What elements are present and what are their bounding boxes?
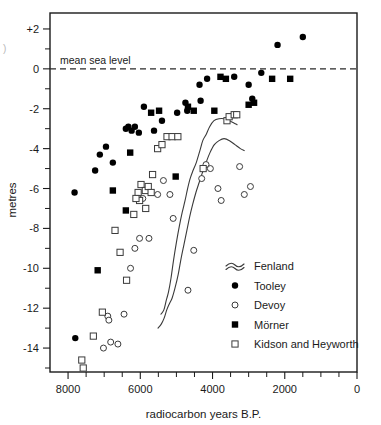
legend-label-1: Tooley: [254, 280, 286, 292]
data-point-devoy: [146, 235, 152, 241]
data-point-devoy: [155, 191, 161, 197]
data-point-tooley: [141, 104, 147, 110]
data-point-kidson: [149, 171, 155, 177]
data-point-morner: [287, 76, 293, 82]
data-point-devoy: [237, 164, 243, 170]
data-point-devoy: [132, 245, 138, 251]
legend-label-4: Kidson and Heyworth: [254, 338, 359, 350]
y-tick-label: -12: [23, 302, 39, 314]
data-point-kidson: [79, 357, 85, 363]
data-point-morner: [269, 76, 275, 82]
data-point-tooley: [232, 282, 238, 288]
data-point-morner: [123, 207, 129, 213]
data-point-tooley: [72, 335, 78, 341]
data-point-morner: [156, 108, 162, 114]
legend-label-0: Fenland: [254, 260, 294, 272]
data-point-morner: [127, 149, 133, 155]
data-point-devoy: [160, 178, 166, 184]
data-point-tooley: [245, 82, 251, 88]
data-point-kidson: [159, 142, 165, 148]
data-point-kidson: [133, 195, 139, 201]
data-point-devoy: [167, 191, 173, 197]
data-point-kidson: [143, 205, 149, 211]
data-point-kidson: [112, 227, 118, 233]
data-point-morner: [223, 76, 229, 82]
data-point-tooley: [300, 34, 306, 40]
data-point-kidson: [99, 309, 105, 315]
data-point-devoy: [191, 247, 197, 253]
data-point-devoy: [121, 311, 127, 317]
data-point-kidson: [135, 189, 141, 195]
legend-label-2: Devoy: [254, 299, 286, 311]
data-point-morner: [211, 108, 217, 114]
x-tick-label: 8000: [56, 383, 80, 395]
data-point-tooley: [197, 98, 203, 104]
data-point-tooley: [110, 159, 116, 165]
data-point-tooley: [274, 42, 280, 48]
legend-swatch-fenland: [226, 263, 244, 267]
data-point-tooley: [204, 76, 210, 82]
y-tick-label: -2: [29, 103, 39, 115]
y-tick-label: +2: [26, 23, 39, 35]
data-point-devoy: [108, 339, 114, 345]
data-point-kidson: [90, 333, 96, 339]
scatter-chart: 80006000400020000+20-2-4-6-8-10-12-14rad…: [0, 0, 381, 425]
data-point-morner: [185, 104, 191, 110]
data-point-morner: [148, 110, 154, 116]
data-point-kidson: [123, 277, 129, 283]
data-point-morner: [232, 321, 238, 327]
data-point-kidson: [131, 211, 137, 217]
data-point-devoy: [207, 166, 213, 172]
x-tick-label: 6000: [128, 383, 152, 395]
x-axis-title: radiocarbon years B.P.: [146, 408, 262, 420]
y-tick-label: 0: [33, 63, 39, 75]
x-tick-label: 4000: [200, 383, 224, 395]
y-tick-label: -8: [29, 222, 39, 234]
data-point-devoy: [137, 235, 143, 241]
data-point-kidson: [148, 189, 154, 195]
data-point-morner: [251, 100, 257, 106]
data-point-devoy: [128, 265, 134, 271]
data-point-devoy: [185, 287, 191, 293]
y-tick-label: -6: [29, 183, 39, 195]
data-point-devoy: [232, 302, 238, 308]
data-point-devoy: [100, 345, 106, 351]
data-point-tooley: [196, 82, 202, 88]
data-point-devoy: [218, 197, 224, 203]
sea-level-figure: 80006000400020000+20-2-4-6-8-10-12-14rad…: [0, 0, 381, 425]
data-point-devoy: [106, 317, 112, 323]
data-point-kidson: [145, 183, 151, 189]
data-point-kidson: [232, 341, 238, 347]
x-tick-label: 2000: [273, 383, 297, 395]
data-point-tooley: [231, 74, 237, 80]
y-axis-title: metres: [6, 182, 18, 217]
data-point-tooley: [151, 127, 157, 133]
data-point-devoy: [115, 341, 121, 347]
data-point-tooley: [92, 167, 98, 173]
legend-swatch-fenland-2: [226, 267, 244, 271]
data-point-devoy: [170, 215, 176, 221]
y-tick-label: -10: [23, 262, 39, 274]
data-point-tooley: [136, 129, 142, 135]
data-point-tooley: [103, 143, 109, 149]
data-point-morner: [172, 173, 178, 179]
data-point-kidson: [117, 249, 123, 255]
data-point-tooley: [71, 189, 77, 195]
data-point-kidson: [169, 134, 175, 140]
data-point-tooley: [174, 110, 180, 116]
data-point-morner: [110, 187, 116, 193]
data-point-kidson: [200, 165, 206, 171]
data-point-tooley: [258, 70, 264, 76]
data-point-devoy: [247, 184, 253, 190]
corner-mark: ): [3, 43, 6, 54]
data-point-kidson: [138, 181, 144, 187]
y-tick-label: -4: [29, 143, 39, 155]
data-point-morner: [191, 108, 197, 114]
data-point-tooley: [159, 118, 165, 124]
x-tick-label: 0: [354, 383, 360, 395]
data-point-kidson: [175, 134, 181, 140]
data-point-morner: [94, 267, 100, 273]
data-point-devoy: [199, 176, 205, 182]
y-tick-label: -14: [23, 342, 39, 354]
plot-frame: [50, 13, 357, 372]
